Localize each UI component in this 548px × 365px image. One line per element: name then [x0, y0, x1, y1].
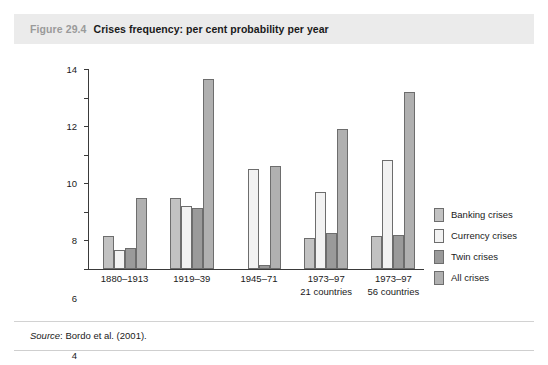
bar[interactable]	[203, 79, 214, 269]
legend-item[interactable]: Currency crises	[434, 225, 534, 246]
bar-group-bars	[237, 69, 281, 269]
bar[interactable]	[304, 238, 315, 269]
bar[interactable]	[404, 92, 415, 269]
figure-title: Crises frequency: per cent probability p…	[94, 23, 329, 35]
bar-group: 1973–9721 countries	[304, 69, 348, 269]
footer-divider	[14, 321, 534, 322]
bar[interactable]	[181, 206, 192, 269]
bar[interactable]	[125, 248, 136, 269]
legend-swatch	[434, 271, 444, 285]
x-axis-line	[88, 269, 424, 270]
x-axis-group-sublabel: 56 countries	[368, 286, 420, 297]
source-text: : Bordo et al. (2001).	[60, 330, 147, 341]
figure-header: Figure 29.4 Crises frequency: per cent p…	[14, 14, 534, 44]
x-axis-group-label: 1973–97	[308, 273, 345, 284]
legend-label: All crises	[451, 272, 489, 283]
bar[interactable]	[114, 250, 125, 269]
bar-group: 1945–71	[237, 69, 281, 269]
bar[interactable]	[270, 166, 281, 269]
bar[interactable]	[315, 192, 326, 269]
legend-label: Currency crises	[451, 230, 517, 241]
bar[interactable]	[337, 129, 348, 269]
y-tick-label: 12	[66, 121, 77, 132]
bar[interactable]	[136, 198, 147, 269]
bar-group: 1973–9756 countries	[371, 69, 415, 269]
x-axis-group-label: 1919–39	[173, 273, 210, 284]
legend-swatch	[434, 208, 444, 222]
bar[interactable]	[170, 198, 181, 269]
bar[interactable]	[393, 235, 404, 269]
bar-group-bars	[170, 69, 214, 269]
bar-group-bars	[103, 69, 147, 269]
bar[interactable]	[192, 208, 203, 269]
y-tick-mark: 12	[84, 98, 89, 99]
legend-label: Twin crises	[451, 251, 498, 262]
y-tick-mark: 6	[84, 183, 89, 184]
chart-legend: Banking crisesCurrency crisesTwin crises…	[434, 204, 534, 288]
bar-group-bars	[304, 69, 348, 269]
bar[interactable]	[371, 236, 382, 269]
y-tick-mark: 8	[84, 155, 89, 156]
y-tick-mark: 14	[84, 69, 89, 70]
x-axis-group-label: 1973–97	[375, 273, 412, 284]
y-tick-label: 6	[72, 292, 77, 303]
legend-swatch	[434, 250, 444, 264]
y-tick-label: 14	[66, 64, 77, 75]
y-tick-mark: 2	[84, 240, 89, 241]
bar-group-bars	[371, 69, 415, 269]
bar-group: 1919–39	[170, 69, 214, 269]
y-tick-mark: 0	[84, 269, 89, 270]
legend-item[interactable]: Banking crises	[434, 204, 534, 225]
bar[interactable]	[248, 169, 259, 269]
x-axis-group-label: 1945–71	[241, 273, 278, 284]
figure-number: Figure 29.4	[30, 23, 87, 35]
source-note: Source: Bordo et al. (2001).	[30, 330, 147, 341]
legend-label: Banking crises	[451, 209, 513, 220]
y-axis-line	[88, 69, 89, 269]
y-tick-mark: 10	[84, 126, 89, 127]
bar[interactable]	[326, 233, 337, 269]
legend-swatch	[434, 229, 444, 243]
chart-plot-body: 02468101214 1880–19131919–391945–711973–…	[14, 44, 534, 321]
bar-group: 1880–1913	[103, 69, 147, 269]
bar[interactable]	[382, 160, 393, 269]
legend-item[interactable]: All crises	[434, 267, 534, 288]
y-tick-label: 8	[72, 235, 77, 246]
chart-plot-area: 02468101214 1880–19131919–391945–711973–…	[88, 69, 424, 269]
bar[interactable]	[103, 236, 114, 269]
legend-item[interactable]: Twin crises	[434, 246, 534, 267]
source-label: Source	[30, 330, 60, 341]
y-tick-label: 10	[66, 178, 77, 189]
x-axis-group-label: 1880–1913	[101, 273, 149, 284]
card-bottom-divider	[14, 350, 534, 351]
bar[interactable]	[259, 265, 270, 269]
y-tick-mark: 4	[84, 212, 89, 213]
figure-card: Figure 29.4 Crises frequency: per cent p…	[14, 14, 534, 351]
x-axis-group-sublabel: 21 countries	[300, 286, 352, 297]
